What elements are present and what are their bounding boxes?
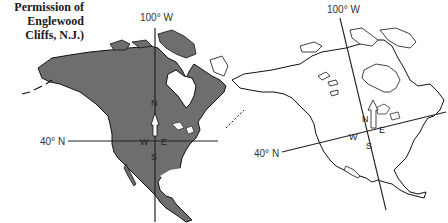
left-compass-n: N — [151, 98, 158, 108]
left-continent — [38, 46, 226, 222]
right-compass-w: W — [349, 132, 358, 142]
right-compass-e: E — [379, 125, 385, 135]
right-map: 100° W 40° N N W E S — [226, 4, 446, 210]
left-meridian-label: 100° W — [140, 12, 173, 23]
left-compass-e: E — [161, 137, 167, 147]
left-map: 100° W 40° N N W E S — [22, 12, 228, 222]
right-compass-s: S — [366, 141, 372, 151]
right-dotted-coast — [226, 110, 244, 128]
map-figure: 100° W 40° N N W E S 100° W 40° N N W — [0, 0, 448, 223]
right-meridian-label: 100° W — [327, 4, 360, 15]
left-arctic-island-2 — [132, 40, 152, 48]
right-parallel-label: 40° N — [254, 148, 279, 159]
left-parallel-label: 40° N — [40, 136, 65, 147]
right-arctic-island-1 — [300, 42, 322, 52]
left-greenland-edge — [210, 56, 228, 76]
right-arctic-island-2 — [350, 28, 378, 46]
right-compass-n: N — [362, 114, 369, 124]
left-compass-s: S — [151, 152, 157, 162]
right-continent — [232, 40, 444, 198]
left-aleutians — [22, 80, 52, 94]
left-compass-w: W — [140, 137, 149, 147]
left-arctic-island-1 — [110, 40, 130, 50]
